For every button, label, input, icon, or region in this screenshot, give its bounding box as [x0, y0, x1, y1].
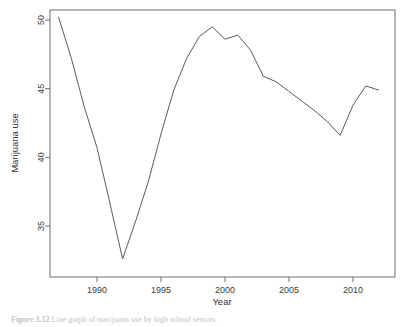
y-tick-label: 50 [36, 15, 46, 25]
figure-container: 35404550 19901995200020052010 Year Marij… [0, 0, 410, 327]
y-axis-ticks [45, 20, 50, 226]
figure-caption: Figure 3.12 Line graph of marijuana use … [11, 315, 401, 325]
x-tick-label: 1990 [87, 285, 107, 295]
y-tick-label: 45 [36, 84, 46, 94]
x-axis-tick-labels: 19901995200020052010 [87, 285, 363, 295]
y-axis-tick-labels: 35404550 [36, 15, 46, 231]
x-tick-label: 2005 [279, 285, 299, 295]
x-axis-title: Year [212, 296, 231, 307]
x-tick-label: 2000 [215, 285, 235, 295]
figure-caption-text: Line graph of marijuana use by high scho… [52, 315, 218, 324]
figure-caption-number: Figure 3.12 [11, 315, 50, 324]
line-chart: 35404550 19901995200020052010 Year Marij… [0, 0, 410, 327]
y-axis-title: Marijuana use [9, 113, 20, 173]
y-tick-label: 35 [36, 221, 46, 231]
marijuana-use-line [59, 17, 379, 259]
x-axis-ticks [97, 277, 353, 282]
y-tick-label: 40 [36, 152, 46, 162]
x-tick-label: 2010 [343, 285, 363, 295]
x-tick-label: 1995 [151, 285, 171, 295]
plot-frame [50, 10, 395, 277]
